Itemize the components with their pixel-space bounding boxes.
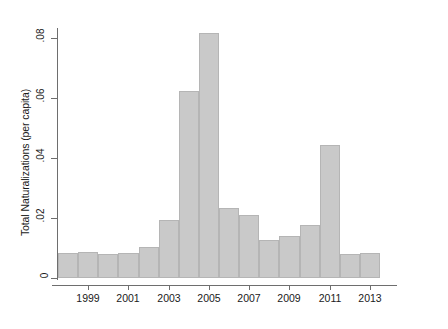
x-tick-mark [169,285,170,290]
chart-figure: Total Naturalizations (per capita) 0.02.… [0,0,448,329]
y-tick-label: .08 [0,30,48,41]
x-tick-mark [249,285,250,290]
bar [279,236,299,278]
x-tick-mark [209,285,210,290]
bar [239,215,259,278]
bar [199,33,219,278]
bar [98,254,118,278]
bar [159,220,179,278]
y-tick-mark [51,98,57,99]
x-tick-mark [370,285,371,290]
bar [219,208,239,278]
bar [78,252,98,278]
y-tick-mark [51,158,57,159]
x-tick-label: 2013 [340,292,400,304]
bar [300,225,320,278]
y-tick-mark [51,38,57,39]
y-tick-label: .06 [0,90,48,101]
y-tick-mark [51,278,57,279]
y-tick-label: .02 [0,210,48,221]
x-tick-mark [88,285,89,290]
bar [320,145,340,278]
bar [58,253,78,279]
x-tick-mark [330,285,331,290]
bar [259,240,279,278]
bar [139,247,159,279]
bar [360,253,380,279]
bar [340,254,360,278]
x-tick-mark [128,285,129,290]
bar-series [58,30,380,278]
y-tick-label: 0 [0,270,48,281]
y-tick-label: .04 [0,150,48,161]
bar [118,253,138,279]
bar [179,91,199,279]
x-tick-mark [289,285,290,290]
x-axis-line [52,285,397,286]
y-tick-mark [51,218,57,219]
